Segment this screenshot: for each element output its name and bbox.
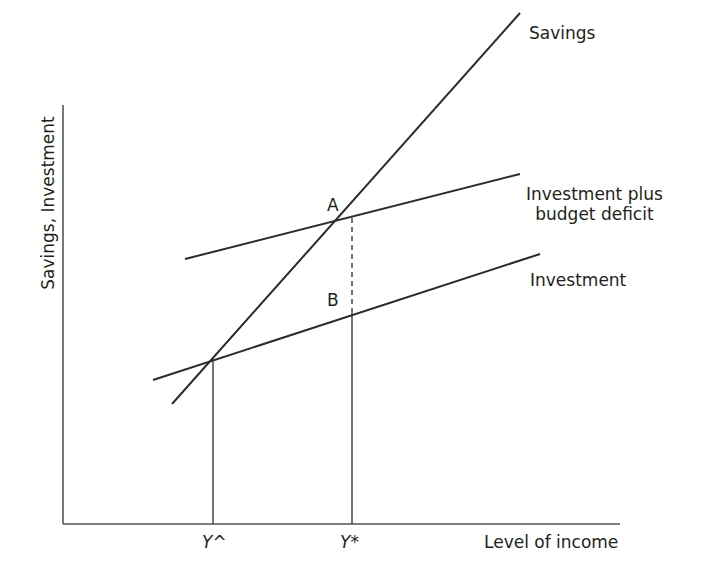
- investment-label: Investment: [530, 270, 626, 290]
- point-b-label: B: [327, 290, 339, 310]
- savings-curve: [172, 13, 520, 404]
- y-axis-label: Savings, Investment: [38, 116, 58, 290]
- investment-plus-deficit-label-line1: Investment plus: [526, 184, 663, 204]
- savings-label: Savings: [529, 23, 595, 43]
- x-tick-y-star: Y*: [340, 532, 359, 552]
- investment-plus-deficit-label-line2: budget deficit: [526, 204, 663, 224]
- investment-curve: [153, 254, 540, 380]
- x-axis-label: Level of income: [484, 532, 618, 552]
- investment-plus-deficit-label: Investment plus budget deficit: [526, 184, 663, 225]
- point-a-label: A: [327, 195, 339, 215]
- x-tick-y-hat: Y^: [202, 532, 227, 552]
